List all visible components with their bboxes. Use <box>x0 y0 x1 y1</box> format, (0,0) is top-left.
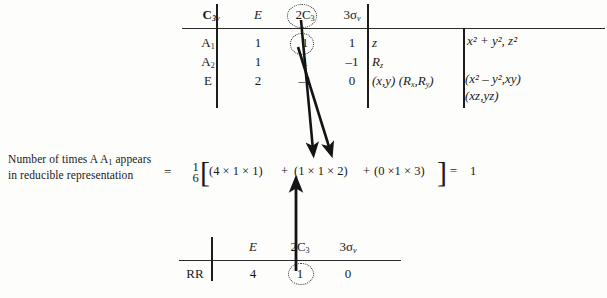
row-label-E: E <box>186 73 230 89</box>
equation-term-1: (4 × 1 × 1) <box>209 164 263 179</box>
caption-line-1: Number of times A A1 appears <box>8 152 151 167</box>
char-A2-2C3: 1 <box>283 54 327 70</box>
highlight-circle-2C3-header <box>287 4 317 28</box>
rr-row-label: RR <box>180 266 210 282</box>
linear-functions-A2: Rz <box>372 54 383 70</box>
rr-header-2C3: 2C3 <box>278 239 322 255</box>
linear-functions-A1: z <box>372 35 377 51</box>
char-E-E: 2 <box>236 73 280 89</box>
quadratic-functions-A1: x² + y², z² <box>467 33 517 49</box>
row-label-A1: A1 <box>186 35 230 51</box>
table-header-rule <box>182 28 605 29</box>
char-A1-3sigmav: 1 <box>330 35 374 51</box>
rr-header-3sigmav: 3σv <box>326 239 370 255</box>
quadratic-functions-E-line2: (xz,yz) <box>465 88 499 104</box>
linear-functions-E: (x,y) (Rx,Ry) <box>372 73 434 89</box>
rr-divider <box>211 237 213 281</box>
equals-sign-right: = <box>450 164 457 179</box>
char-A2-3sigmav: –1 <box>330 54 374 70</box>
char-A2-E: 1 <box>236 54 280 70</box>
rr-char-E: 4 <box>231 266 275 282</box>
highlight-circle-rr-character <box>288 263 314 285</box>
equation-result: 1 <box>470 164 476 179</box>
quadratic-functions-E-line1: (x² – y²,xy) <box>465 71 521 87</box>
char-E-3sigmav: 0 <box>330 73 374 89</box>
rr-header-E: E <box>231 239 275 255</box>
bracket-close: ] <box>437 157 447 187</box>
equation-plus-1: + <box>281 164 288 179</box>
equation-plus-2: + <box>363 164 370 179</box>
equation-term-3: (0 ×1 × 3) <box>374 164 425 179</box>
char-E-2C3: –1 <box>283 73 327 89</box>
caption-line-2: in reducible representation <box>8 168 133 183</box>
equals-sign-left: = <box>164 164 171 180</box>
row-label-A2: A2 <box>186 54 230 70</box>
rr-char-3sigmav: 0 <box>326 266 370 282</box>
figure-canvas: C3v E 2C3 3σv A1 1 1 1 z x² + y², z² A2 … <box>0 0 607 298</box>
point-group-label: C3v <box>186 7 236 23</box>
highlight-circle-A1-character <box>290 33 314 55</box>
header-op-E: E <box>236 7 280 23</box>
equation-term-2: (1 × 1 × 2) <box>294 164 348 179</box>
char-A1-E: 1 <box>236 35 280 51</box>
